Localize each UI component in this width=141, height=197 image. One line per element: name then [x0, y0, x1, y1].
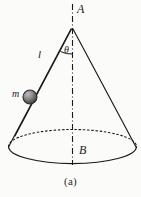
- pendulum-bob: [23, 90, 37, 104]
- angle-label: θ: [64, 45, 69, 55]
- figure-canvas: [0, 0, 141, 197]
- mass-label: m: [12, 89, 19, 99]
- string-length-label: l: [38, 49, 41, 60]
- base-center-label: B: [79, 144, 86, 156]
- figure-caption: (a): [0, 175, 141, 187]
- cone-right-edge: [73, 29, 136, 147]
- apex-label: A: [77, 3, 84, 15]
- conical-pendulum-figure: A l θ m B (a): [0, 0, 141, 197]
